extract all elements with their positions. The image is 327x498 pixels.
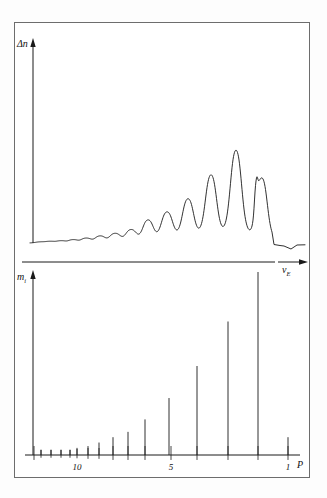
lower-y-axis-arrowhead	[30, 270, 35, 279]
upper-x-axis-arrowhead	[299, 259, 308, 264]
lower-y-axis-label-text: m	[17, 271, 24, 282]
x-axis-tick-label: 10	[73, 462, 83, 472]
x-axis-tick-label: 5	[169, 462, 174, 472]
upper-y-axis-label: Δn	[16, 38, 28, 49]
upper-x-axis-label-subscript: E	[285, 270, 290, 277]
lower-x-axis-tick-labels: 1051	[73, 462, 291, 472]
figure-root: Δn νE mi 1051 P	[0, 0, 327, 498]
stick-spectrum	[41, 272, 288, 455]
upper-y-axis-arrowhead	[30, 38, 35, 47]
lower-x-axis-ticks	[34, 446, 288, 460]
lower-panel: mi 1051 P	[17, 270, 303, 472]
lower-y-axis-label-subscript: i	[24, 277, 26, 284]
spectrum-trace	[30, 150, 305, 249]
upper-panel: Δn νE	[16, 38, 308, 277]
lower-x-axis-label: P	[296, 459, 303, 470]
upper-x-axis-label: νE	[282, 264, 290, 277]
spectrum-plot: Δn νE mi 1051 P	[0, 0, 327, 498]
x-axis-tick-label: 1	[286, 462, 291, 472]
lower-y-axis-label: mi	[17, 271, 26, 284]
